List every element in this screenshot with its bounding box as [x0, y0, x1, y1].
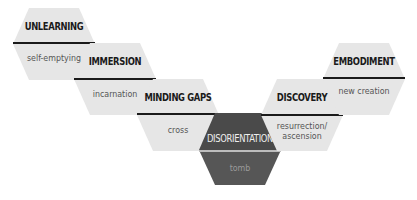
stage-title: IMMERSION — [80, 55, 150, 68]
stage-subtitle: resurrection/ ascension — [276, 121, 329, 141]
stage-subtitle: new creation — [328, 86, 400, 96]
stage-title: MINDING GAPS — [143, 91, 213, 104]
stage-embodiment: EMBODIMENT new creation — [323, 43, 405, 115]
stage-title: EMBODIMENT — [329, 55, 399, 68]
stage-subtitle: tomb — [204, 163, 276, 173]
stage-divider — [323, 77, 405, 79]
hexagon-shape — [323, 43, 405, 115]
stage-title: UNLEARNING — [19, 20, 89, 33]
